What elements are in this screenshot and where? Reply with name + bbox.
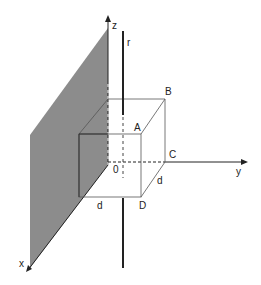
diagram: z r B A C 0 y d d D x	[0, 0, 261, 285]
point-c-label: C	[169, 150, 176, 160]
z-axis-arrow-icon	[105, 15, 111, 22]
side-edge-label: d	[157, 176, 163, 186]
rod-label: r	[127, 38, 130, 48]
origin-label: 0	[113, 165, 119, 175]
shaded-plane	[30, 28, 108, 268]
point-a-label: A	[134, 123, 141, 133]
front-edge-label: d	[97, 201, 103, 211]
y-axis-label: y	[236, 167, 241, 177]
diagram-canvas	[0, 0, 261, 285]
y-axis-arrow-icon	[241, 159, 248, 165]
point-b-label: B	[165, 87, 172, 97]
x-axis-label: x	[19, 259, 24, 269]
point-d-label: D	[139, 201, 146, 211]
z-axis-label: z	[112, 21, 117, 31]
